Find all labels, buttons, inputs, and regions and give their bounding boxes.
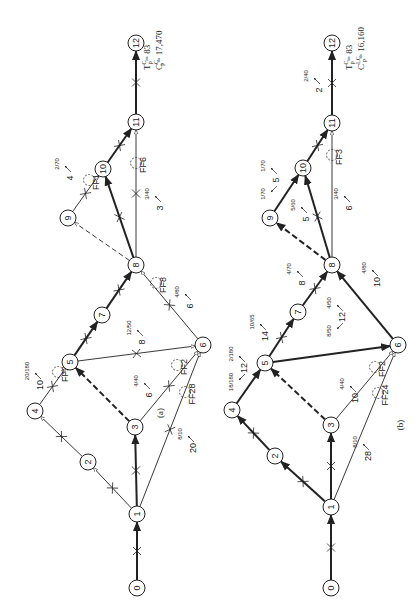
activity-annotation: 51/701/70 <box>260 160 281 200</box>
activity-annotation: 124/508/50 <box>326 297 347 337</box>
event-node-b-4: 4 <box>224 402 240 418</box>
duration-value: 2 <box>314 87 324 92</box>
activity-annotation: 33/40 <box>144 188 165 211</box>
activity-annotation: 812/50 <box>126 320 147 345</box>
event-node-b-12: 12 <box>324 35 340 51</box>
duration-value: 10 <box>372 277 382 287</box>
summary-block-b: TCP= 83CLCP= 16,160 <box>343 26 368 70</box>
duration-value: 8 <box>297 280 307 285</box>
node-number: 5 <box>260 360 270 365</box>
cost-rate-label: 20/180 <box>24 361 30 380</box>
cost-rate-label: 12/50 <box>126 320 132 336</box>
node-number: 8 <box>131 262 141 267</box>
activity-annotation: 84/70 <box>286 263 307 286</box>
free-float-marker: FF6 <box>131 157 149 173</box>
duration-value: 4 <box>65 175 75 180</box>
event-node-b-9: 9 <box>262 210 278 226</box>
cross-tick-icon <box>163 380 174 391</box>
cost-rate-label: 5/60 <box>290 199 296 211</box>
node-number: 6 <box>198 342 208 347</box>
activity-annotation: 208/10 <box>177 428 198 454</box>
project-cost: CLCP= 16,160 <box>355 26 368 70</box>
cost-rate-label: 4/40 <box>133 375 139 387</box>
node-number: 4 <box>30 408 40 413</box>
cross-tick-icon <box>80 188 91 199</box>
event-node-b-3: 3 <box>323 417 339 433</box>
event-node-a-6: 6 <box>195 337 211 353</box>
cost-rate-label: 4/80 <box>174 286 180 298</box>
cross-tick-icon <box>47 381 58 392</box>
event-node-a-11: 11 <box>128 114 144 130</box>
free-float-marker: FF1 <box>84 174 102 190</box>
free-float-marker: FF24 <box>373 384 391 405</box>
duration-value: 5 <box>301 216 311 221</box>
duration-value: 10 <box>350 393 360 403</box>
event-node-a-4: 4 <box>27 403 43 419</box>
duration-value: 5 <box>271 177 281 182</box>
cost-rate-label: 4/50 <box>326 297 332 309</box>
activity-annotation: 64/80 <box>174 286 195 309</box>
duration-value: 8 <box>137 339 147 344</box>
node-number: 11 <box>327 118 337 127</box>
activity-arrow-a-3-5 <box>76 368 130 422</box>
duration-value: 6 <box>344 205 354 210</box>
node-number: 8 <box>327 262 337 267</box>
cost-rate-label: 4/40 <box>339 378 345 390</box>
event-node-a-2: 2 <box>80 454 96 470</box>
node-number: 1 <box>132 511 142 516</box>
activity-annotation: 1410/65 <box>249 314 270 341</box>
event-node-a-1: 1 <box>129 506 145 522</box>
free-float-label: FF8 <box>158 277 168 293</box>
cost-rate-label: 10/65 <box>249 314 255 330</box>
duration-value: 12 <box>239 363 249 373</box>
cross-tick-icon <box>114 212 124 222</box>
free-float-label: FF3 <box>334 149 344 165</box>
cost-rate-label: 8/10 <box>352 436 358 448</box>
cost-rate-label: 2/180 <box>228 346 234 362</box>
cost-rate-label: 8/10 <box>177 428 183 440</box>
activity-annotation: 288/10 <box>352 436 373 462</box>
cost-rate-label: 1/70 <box>260 160 266 172</box>
free-float-label: FF2 <box>179 359 189 375</box>
float-markers-layer: FF2FF2FF28FF8FF1FF6FF2FF24FF3 <box>53 149 391 406</box>
node-number: 9 <box>63 215 73 220</box>
cross-tick-icon <box>80 333 91 344</box>
activity-annotation: 104/80 <box>361 262 382 288</box>
node-number: 7 <box>97 312 107 317</box>
node-number: 7 <box>293 309 303 314</box>
node-number: 2 <box>270 453 280 458</box>
free-float-label: FF24 <box>380 384 390 405</box>
duration-value: 6 <box>144 392 154 397</box>
cross-tick-icon <box>113 284 124 295</box>
network-diagrams-canvas: FF2FF2FF28FF8FF1FF6FF2FF24FF3 1020/18064… <box>0 0 419 615</box>
node-number: 0 <box>326 585 336 590</box>
event-node-a-9: 9 <box>60 210 76 226</box>
event-node-a-3: 3 <box>127 419 143 435</box>
activity-annotation: 55/60 <box>290 199 311 222</box>
project-cost: CCP= 17,470 <box>153 30 166 70</box>
node-number: 0 <box>132 585 142 590</box>
free-float-marker: FF28 <box>180 383 198 404</box>
activity-annotation: 42/70 <box>54 158 75 181</box>
duration-value: 14 <box>260 331 270 341</box>
event-node-a-0: 0 <box>129 580 145 596</box>
cost-rate-label: 2/70 <box>54 158 60 170</box>
event-node-a-8: 8 <box>128 257 144 273</box>
event-node-b-10: 10 <box>295 160 311 176</box>
free-float-marker: FF3 <box>327 149 345 165</box>
cross-tick-icon <box>165 424 175 434</box>
event-node-a-5: 5 <box>62 354 78 370</box>
cross-tick-icon <box>164 299 175 310</box>
activity-annotation: 63/40 <box>333 188 354 211</box>
cost-rate-label: 3/40 <box>333 188 339 200</box>
node-number: 1 <box>326 504 336 509</box>
figure-caption-a: (a) <box>155 408 165 418</box>
activity-arrow-b-6-8 <box>337 271 393 339</box>
node-number: 4 <box>227 407 237 412</box>
duration-value: 12 <box>337 312 347 322</box>
figure-caption-b: (b) <box>395 420 405 431</box>
node-number: 2 <box>83 459 93 464</box>
cost-rate-label: 4/70 <box>286 263 292 275</box>
cost-rate-label: 2/40 <box>303 70 309 82</box>
duration-value: 28 <box>363 451 373 461</box>
